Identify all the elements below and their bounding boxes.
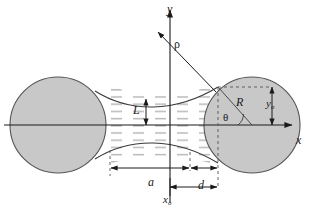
- liquid-bridge-region: [104, 80, 220, 172]
- sphere-radius-label: R: [236, 96, 243, 108]
- liquid-bridge-diagram: y x ρ L R θ yo a d xo: [0, 0, 310, 211]
- embrace-depth-label: d: [198, 179, 204, 191]
- rho-arrow: [158, 32, 216, 92]
- neck-height-label: L: [133, 104, 140, 116]
- contact-height-subscript: o: [271, 103, 274, 110]
- contact-height-label: yo: [266, 98, 274, 109]
- contact-angle-label: θ: [223, 112, 228, 123]
- rho-label: ρ: [174, 38, 180, 50]
- half-gap-label: a: [148, 176, 154, 188]
- x-axis-label: x: [296, 134, 301, 146]
- y-axis-label: y: [167, 3, 172, 15]
- contact-abscissa-subscript: o: [168, 199, 171, 206]
- contact-abscissa-label: xo: [163, 194, 171, 205]
- diagram-canvas: [0, 0, 310, 211]
